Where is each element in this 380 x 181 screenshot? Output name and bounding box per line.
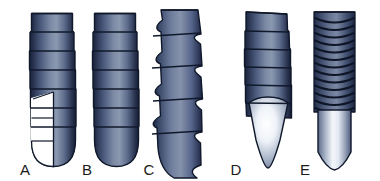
implant-d-label: D bbox=[231, 161, 242, 178]
implant-b: B bbox=[82, 14, 139, 179]
implant-e-apex bbox=[318, 110, 351, 170]
implant-illustration-svg: A B C bbox=[0, 0, 380, 181]
implant-c-label: C bbox=[144, 161, 155, 178]
implant-a-label: A bbox=[20, 161, 30, 178]
implant-c: C bbox=[144, 10, 203, 178]
implant-figure: A B C bbox=[0, 0, 380, 181]
implant-e-label: E bbox=[300, 161, 310, 178]
implant-b-body bbox=[93, 14, 140, 167]
implant-d: D bbox=[231, 12, 292, 178]
implant-e: E bbox=[300, 12, 355, 178]
implant-d-apex bbox=[249, 97, 288, 168]
implant-b-label: B bbox=[82, 161, 92, 178]
implant-a: A bbox=[20, 14, 76, 179]
